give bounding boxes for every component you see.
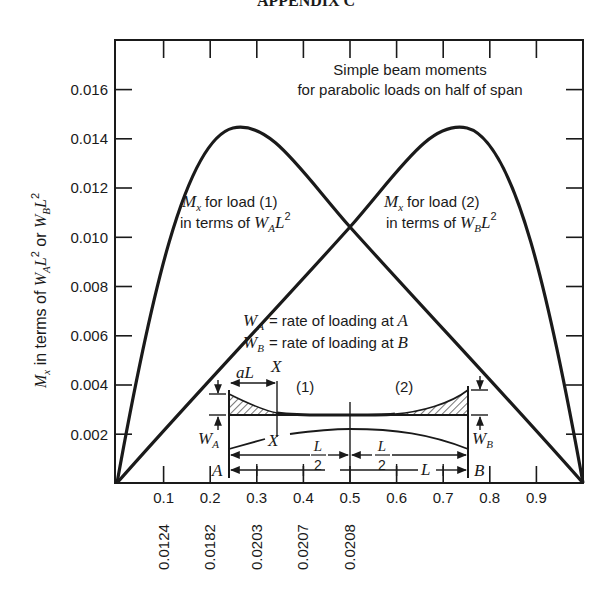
- svg-text:in terms ofWBL2: in terms ofWBL2: [386, 210, 497, 234]
- svg-text:0.9: 0.9: [526, 489, 547, 506]
- beam-diagram: [209, 376, 488, 483]
- series-load-1-label: Mxfor load (1) in terms ofWAL2: [180, 192, 291, 234]
- svg-text:for parabolic loads on half of: for parabolic loads on half of span: [297, 81, 522, 98]
- svg-text:Mxfor load (2): Mxfor load (2): [383, 192, 480, 213]
- svg-text:0.1: 0.1: [153, 489, 174, 506]
- svg-text:0.5: 0.5: [340, 489, 361, 506]
- svg-text:0.8: 0.8: [479, 489, 500, 506]
- svg-text:A: A: [211, 461, 223, 480]
- svg-text:0.0208: 0.0208: [341, 524, 358, 570]
- svg-text:L: L: [420, 460, 430, 479]
- y-axis-ticks: [115, 90, 132, 435]
- svg-text:WB: WB: [472, 429, 493, 450]
- svg-text:(1): (1): [296, 378, 314, 395]
- page-header: APPENDIX C: [257, 0, 355, 9]
- svg-text:X: X: [267, 431, 279, 450]
- svg-text:0.0124: 0.0124: [155, 524, 172, 570]
- svg-text:0.012: 0.012: [70, 179, 108, 196]
- y-axis-label: Mx in terms of WAL2 or WBL2: [29, 193, 52, 389]
- secondary-x-labels: 0.0124 0.0182 0.0203 0.0207 0.0208: [155, 524, 358, 570]
- svg-text:0.014: 0.014: [70, 130, 108, 147]
- svg-text:0.0182: 0.0182: [201, 524, 218, 570]
- svg-text:WA: WA: [198, 429, 219, 450]
- svg-text:Simple beam moments: Simple beam moments: [333, 61, 486, 78]
- svg-text:0.4: 0.4: [293, 489, 314, 506]
- svg-text:Mxfor load (1): Mxfor load (1): [181, 192, 278, 213]
- series-load-2-label: Mxfor load (2) in terms ofWBL2: [383, 192, 497, 234]
- svg-text:2: 2: [378, 457, 386, 473]
- chart-title: Simple beam moments for parabolic loads …: [297, 61, 522, 98]
- svg-text:aL: aL: [236, 363, 254, 382]
- svg-text:0.6: 0.6: [386, 489, 407, 506]
- beam-moment-chart: APPENDIX C: [0, 0, 612, 589]
- svg-text:0.004: 0.004: [70, 376, 108, 393]
- beam-labels: aL X (1) (2) X WA WB A B L 2 L 2 L: [198, 357, 493, 480]
- y-tick-labels: 0.016 0.014 0.012 0.010 0.008 0.006 0.00…: [70, 81, 108, 443]
- svg-text:X: X: [270, 357, 282, 376]
- beam-deflection-curve: [229, 429, 468, 449]
- svg-text:(2): (2): [395, 378, 413, 395]
- right-ticks: [566, 90, 583, 435]
- load-1-area: [229, 394, 277, 415]
- svg-text:WB= rate of loading atB: WB= rate of loading atB: [243, 333, 409, 354]
- svg-text:L: L: [377, 438, 386, 454]
- svg-text:0.0207: 0.0207: [294, 524, 311, 570]
- x-tick-labels: 0.1 0.2 0.3 0.4 0.5 0.6 0.7 0.8 0.9: [153, 489, 547, 506]
- svg-text:0.006: 0.006: [70, 327, 108, 344]
- svg-text:0.008: 0.008: [70, 278, 108, 295]
- svg-text:Mx in terms of WAL2 or WBL2: Mx in terms of WAL2 or WBL2: [29, 193, 52, 389]
- svg-text:L: L: [313, 438, 322, 454]
- svg-text:WA= rate of loading atA: WA= rate of loading atA: [243, 311, 409, 332]
- svg-text:in terms ofWAL2: in terms ofWAL2: [180, 210, 291, 234]
- top-ticks: [164, 40, 537, 58]
- svg-text:0.7: 0.7: [433, 489, 454, 506]
- svg-text:0.010: 0.010: [70, 229, 108, 246]
- svg-text:0.3: 0.3: [246, 489, 267, 506]
- svg-text:2: 2: [314, 457, 322, 473]
- plot-frame: [115, 40, 583, 483]
- svg-text:B: B: [474, 461, 485, 480]
- svg-text:0.0203: 0.0203: [248, 524, 265, 570]
- svg-text:0.016: 0.016: [70, 81, 108, 98]
- svg-text:0.002: 0.002: [70, 426, 108, 443]
- svg-text:0.2: 0.2: [200, 489, 221, 506]
